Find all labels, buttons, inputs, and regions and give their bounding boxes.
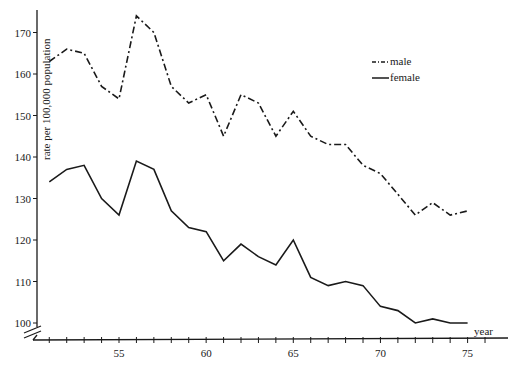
line-chart: 5560657075100110120130140150160170yearra… [0, 0, 518, 366]
x-tick-label: 60 [201, 347, 213, 359]
y-tick-label: 130 [15, 193, 32, 205]
legend: malefemale [372, 55, 420, 83]
x-tick-label: 65 [288, 347, 300, 359]
legend-label-male: male [390, 55, 411, 67]
legend-label-female: female [390, 71, 420, 83]
y-tick-label: 170 [15, 27, 32, 39]
x-tick-label: 75 [462, 347, 474, 359]
x-tick-label: 55 [114, 347, 126, 359]
y-tick-label: 160 [15, 68, 32, 80]
series-line-male [49, 16, 467, 215]
y-tick-label: 150 [15, 110, 32, 122]
x-axis-line [33, 338, 508, 340]
x-axis-title: year [474, 325, 493, 337]
y-tick-label: 140 [15, 151, 32, 163]
series-line-female [49, 161, 467, 323]
y-tick-label: 100 [15, 317, 32, 329]
y-axis-title: rate per 100,000 population [40, 38, 52, 160]
y-tick-label: 110 [15, 276, 32, 288]
x-tick-label: 70 [375, 347, 387, 359]
y-tick-label: 120 [15, 234, 32, 246]
